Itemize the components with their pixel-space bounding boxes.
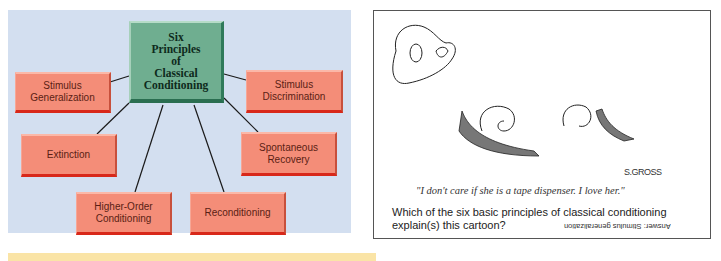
snail-right-body [596, 109, 634, 141]
node-reconditioning: Reconditioning [190, 192, 286, 235]
snail-left-body [459, 111, 539, 156]
center-node: Six Principles of Classical Conditioning [129, 21, 224, 103]
snail-left-shell [480, 106, 514, 131]
node-extinction: Extinction [21, 134, 117, 177]
snail-right-shell [563, 105, 591, 126]
cartoon-frame: S.GROSS "I don't care if she is a tape d… [373, 10, 711, 239]
node-spontaneous-recovery: Spontaneous Recovery [241, 132, 337, 176]
artist-signature: S.GROSS [624, 167, 662, 177]
upside-down-answer: Answer: Stimulus generalization [564, 222, 671, 231]
node-higher-order-conditioning: Higher-Order Conditioning [76, 192, 172, 235]
cartoon-illustration [374, 11, 710, 238]
cartoon-caption: "I don't care if she is a tape dispenser… [416, 185, 625, 196]
node-stimulus-discrimination: Stimulus Discrimination [246, 70, 343, 113]
node-stimulus-generalization: Stimulus Generalization [15, 72, 111, 113]
